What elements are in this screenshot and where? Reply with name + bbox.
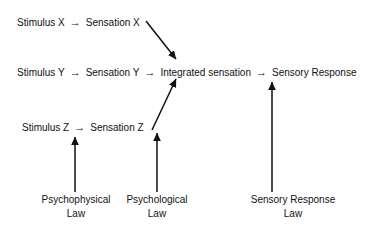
- sensation-y-label: Sensation Y: [86, 67, 140, 78]
- sensation-z-label: Sensation Z: [90, 122, 143, 133]
- sensory-response-label: Sensory Response: [272, 67, 357, 78]
- diagram-canvas: Stimulus X → Sensation X Stimulus Y → Se…: [0, 0, 383, 234]
- law-psychological-line1: Psychological: [126, 194, 187, 205]
- arrow-integrated-to-response: →: [251, 67, 272, 78]
- connector-sensation-x-to-integrated: [146, 21, 176, 59]
- sensation-x-label: Sensation X: [86, 17, 140, 28]
- arrow-stimulus-y-to-sensation-y: →: [65, 67, 86, 78]
- arrow-sensation-y-to-integrated: →: [139, 67, 160, 78]
- stimulus-x-label: Stimulus X: [17, 17, 65, 28]
- stimulus-y-label: Stimulus Y: [17, 67, 65, 78]
- chain-row-x: Stimulus X → Sensation X: [17, 17, 140, 28]
- stimulus-z-label: Stimulus Z: [22, 122, 69, 133]
- law-sensory-response: Sensory Response Law: [228, 193, 358, 221]
- law-sensory-response-line2: Law: [228, 207, 358, 221]
- law-sensory-response-line1: Sensory Response: [251, 194, 336, 205]
- chain-row-y: Stimulus Y → Sensation Y → Integrated se…: [17, 67, 357, 78]
- connector-sensation-z-to-integrated: [152, 79, 176, 130]
- integrated-sensation-label: Integrated sensation: [160, 67, 251, 78]
- chain-row-z: Stimulus Z → Sensation Z: [22, 122, 144, 133]
- arrow-stimulus-x-to-sensation-x: →: [65, 17, 86, 28]
- arrow-stimulus-z-to-sensation-z: →: [69, 122, 90, 133]
- law-psychological: Psychological Law: [97, 193, 217, 221]
- law-psychological-line2: Law: [97, 207, 217, 221]
